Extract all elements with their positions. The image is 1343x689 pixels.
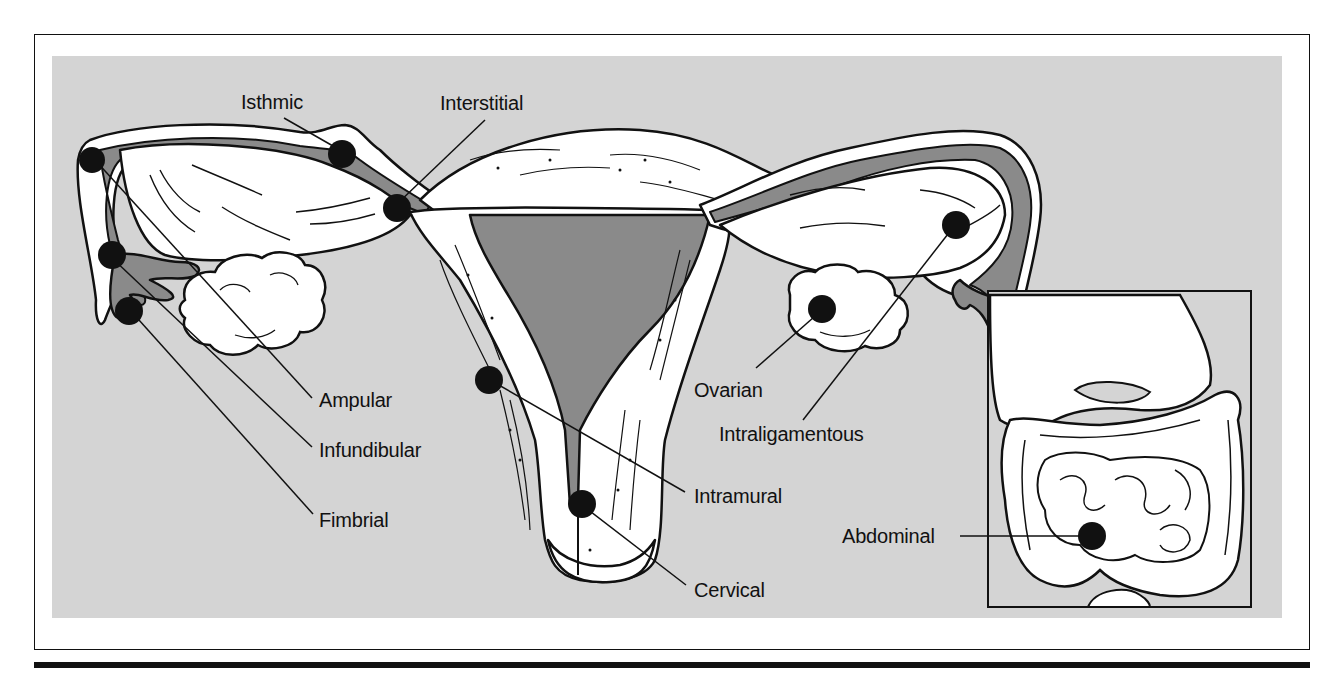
marker-intraligamentous (942, 211, 970, 239)
marker-cervical (568, 490, 596, 518)
abdominal-inset (988, 291, 1251, 607)
label-isthmic: Isthmic (241, 91, 303, 113)
label-abdominal: Abdominal (842, 525, 935, 547)
label-ovarian: Ovarian (694, 379, 763, 401)
marker-interstitial (383, 194, 411, 222)
marker-ovarian (808, 295, 836, 323)
marker-fimbrial (115, 297, 143, 325)
label-fimbrial: Fimbrial (319, 509, 389, 531)
marker-infundibular (98, 241, 126, 269)
label-cervical: Cervical (694, 579, 765, 601)
marker-ampular (79, 147, 105, 173)
label-intramural: Intramural (694, 485, 782, 507)
marker-abdominal (1078, 522, 1106, 550)
label-intraligamentous: Intraligamentous (719, 423, 864, 445)
ectopic-pregnancy-diagram: Isthmic Interstitial Ampular Infundibula… (0, 0, 1343, 689)
marker-intramural (475, 366, 503, 394)
label-interstitial: Interstitial (440, 92, 523, 114)
marker-isthmic (328, 140, 356, 168)
label-infundibular: Infundibular (319, 439, 422, 461)
label-ampular: Ampular (319, 389, 393, 411)
